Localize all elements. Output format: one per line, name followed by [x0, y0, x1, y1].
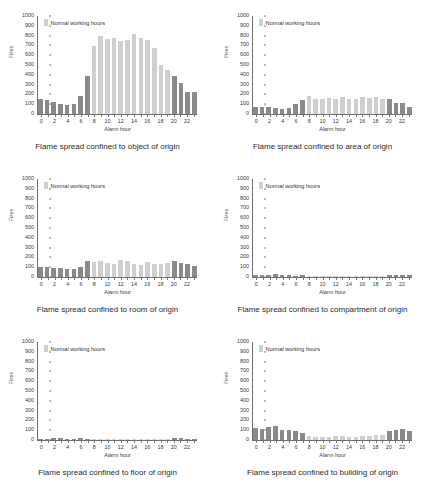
x-tick-mark	[101, 278, 102, 280]
y-tick-label: 500	[25, 62, 34, 67]
x-tick-mark	[329, 278, 330, 280]
x-tick-label: 16	[359, 281, 365, 287]
legend-swatch-icon	[259, 182, 263, 189]
bar	[78, 438, 83, 440]
y-tick-label: 700	[25, 206, 34, 211]
x-tick-mark	[296, 115, 297, 117]
bar-series	[38, 342, 197, 440]
x-tick-mark	[154, 115, 155, 117]
x-tick-label: 0	[40, 281, 43, 287]
bar	[407, 431, 412, 440]
bar	[340, 97, 345, 114]
x-tick-label: 8	[93, 281, 96, 287]
bar	[192, 266, 197, 277]
bar	[152, 48, 157, 114]
x-tick-mark	[68, 441, 69, 443]
x-tick-mark	[336, 115, 337, 117]
bar	[125, 261, 130, 277]
y-tick-label: 100	[240, 427, 249, 432]
y-tick-label: 600	[25, 215, 34, 220]
y-tick-label: 100	[25, 427, 34, 432]
bar	[367, 436, 372, 440]
x-tick-mark	[94, 441, 95, 443]
bar	[51, 102, 56, 114]
x-tick-label: 14	[131, 444, 137, 450]
y-tick-label: 600	[240, 215, 249, 220]
x-axis-label: Alarm hour	[38, 289, 197, 295]
bar	[165, 439, 170, 440]
bar	[132, 439, 137, 440]
x-tick-mark	[101, 115, 102, 117]
bar	[145, 262, 150, 277]
bar	[132, 34, 137, 114]
chart-caption: Flame spread confined to floor of origin	[0, 468, 215, 477]
y-tick-label: 400	[25, 235, 34, 240]
bar	[253, 275, 258, 277]
x-tick-mark	[362, 115, 363, 117]
x-tick-mark	[342, 441, 343, 443]
legend-label: Normal working hours	[266, 346, 320, 352]
x-axis-ticks: 0246810121416182022	[253, 115, 412, 125]
x-tick-mark	[114, 278, 115, 280]
x-tick-label: 22	[184, 444, 190, 450]
x-tick-label: 16	[359, 118, 365, 124]
y-tick-label: 900	[25, 349, 34, 354]
bar	[313, 276, 318, 277]
bar	[45, 439, 50, 440]
x-tick-mark	[187, 278, 188, 280]
x-tick-mark	[303, 278, 304, 280]
bar	[266, 427, 271, 440]
x-tick-mark	[323, 441, 324, 443]
y-tick-label: 0	[31, 274, 34, 279]
legend: Normal working hours	[44, 345, 105, 352]
x-tick-mark	[336, 278, 337, 280]
x-tick-label: 16	[144, 118, 150, 124]
x-tick-mark	[180, 115, 181, 117]
bar	[51, 438, 56, 440]
legend-label: Normal working hours	[51, 20, 105, 26]
bar	[152, 264, 157, 277]
x-tick-mark	[323, 115, 324, 117]
x-tick-mark	[180, 278, 181, 280]
bar	[145, 40, 150, 114]
x-tick-mark	[395, 441, 396, 443]
x-tick-label: 0	[40, 118, 43, 124]
x-tick-mark	[389, 441, 390, 443]
x-tick-mark	[309, 115, 310, 117]
x-tick-mark	[283, 115, 284, 117]
legend-swatch-icon	[44, 345, 48, 352]
bar	[273, 108, 278, 114]
x-tick-label: 14	[346, 118, 352, 124]
x-tick-label: 2	[53, 444, 56, 450]
x-tick-mark	[167, 115, 168, 117]
bar	[118, 41, 123, 114]
bar	[78, 96, 83, 114]
bar	[307, 436, 312, 440]
bar	[407, 275, 412, 277]
y-tick-label: 400	[25, 72, 34, 77]
bar	[280, 430, 285, 440]
x-tick-label: 8	[308, 118, 311, 124]
x-tick-mark	[376, 115, 377, 117]
bar	[65, 269, 70, 277]
x-tick-mark	[108, 115, 109, 117]
x-axis-label: Alarm hour	[253, 126, 412, 132]
y-tick-label: 300	[240, 408, 249, 413]
bar	[105, 439, 110, 440]
bar	[132, 264, 137, 277]
x-tick-mark	[141, 441, 142, 443]
bar	[185, 439, 190, 440]
x-tick-label: 8	[93, 118, 96, 124]
bar	[165, 70, 170, 114]
x-tick-mark	[68, 115, 69, 117]
x-tick-mark	[356, 441, 357, 443]
bar-series	[38, 179, 197, 277]
bar	[72, 439, 77, 440]
x-tick-mark	[154, 278, 155, 280]
bar	[85, 439, 90, 440]
bar	[374, 435, 379, 440]
x-tick-label: 6	[80, 444, 83, 450]
x-tick-label: 0	[40, 444, 43, 450]
bar-series	[253, 179, 412, 277]
x-tick-mark	[108, 278, 109, 280]
